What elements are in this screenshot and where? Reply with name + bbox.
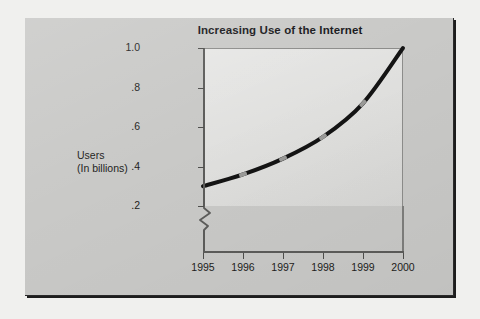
series-markers xyxy=(239,99,367,177)
y-tick-label: .4 xyxy=(131,160,140,172)
y-tick-mark xyxy=(198,206,204,207)
x-tick-label: 2000 xyxy=(383,261,423,273)
x-tick-mark xyxy=(203,253,204,259)
x-tick-mark xyxy=(283,253,284,259)
x-tick-label: 1997 xyxy=(263,261,303,273)
y-tick: .2 xyxy=(145,206,204,207)
slide-page-panel: Users (In billions) Increasing Use of th… xyxy=(25,18,454,296)
x-tick-label: 1995 xyxy=(183,261,223,273)
y-axis-caption-line2: (In billions) xyxy=(77,162,155,175)
y-tick-label: 1.0 xyxy=(125,41,140,53)
data-point-marker xyxy=(279,155,288,162)
y-tick-mark xyxy=(198,88,204,89)
y-tick: 1.0 xyxy=(145,48,204,49)
y-tick: .4 xyxy=(145,167,204,168)
x-tick-mark xyxy=(363,253,364,259)
x-tick-label: 1998 xyxy=(303,261,343,273)
screenshot-root: Users (In billions) Increasing Use of th… xyxy=(0,0,480,319)
y-tick-mark xyxy=(198,127,204,128)
y-tick-label: .2 xyxy=(131,199,140,211)
y-tick: .8 xyxy=(145,88,204,89)
x-tick-mark xyxy=(243,253,244,259)
plot-right-riser xyxy=(402,206,404,252)
data-point-marker xyxy=(239,171,248,177)
x-tick-label: 1999 xyxy=(343,261,383,273)
y-axis-break-icon xyxy=(197,204,215,232)
y-axis-caption-line1: Users xyxy=(77,149,155,162)
x-axis-line xyxy=(203,251,404,253)
x-tick-label: 1996 xyxy=(223,261,263,273)
y-tick-label: .8 xyxy=(131,81,140,93)
chart-title: Increasing Use of the Internet xyxy=(145,24,415,36)
y-tick-label: .6 xyxy=(131,120,140,132)
y-tick-mark xyxy=(198,167,204,168)
chart: Increasing Use of the Internet 1.0.8.6.4… xyxy=(145,18,415,295)
y-axis-caption: Users (In billions) xyxy=(77,149,155,175)
series-path xyxy=(203,48,403,186)
y-axis-lower-stub xyxy=(203,230,205,252)
y-tick: .6 xyxy=(145,127,204,128)
y-tick-mark xyxy=(198,48,204,49)
data-series-line xyxy=(203,48,405,208)
x-tick-mark xyxy=(403,253,404,259)
x-tick-mark xyxy=(323,253,324,259)
